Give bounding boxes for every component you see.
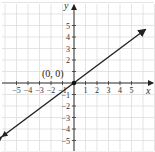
y-tick-label: −5 [61, 137, 70, 146]
y-tick-label: 3 [66, 45, 70, 54]
y-tick-label: −2 [61, 102, 70, 111]
y-tick-label: 4 [66, 33, 70, 42]
x-tick-label: −4 [24, 86, 33, 95]
coordinate-plane-chart: −5−4−3−2−112345−5−4−3−2−12345 x y (0, 0) [0, 0, 155, 152]
origin-point-label: (0, 0) [42, 68, 64, 79]
x-tick-label: 5 [130, 86, 134, 95]
x-tick-label: 3 [107, 86, 111, 95]
plot-area: −5−4−3−2−112345−5−4−3−2−12345 [0, 0, 155, 152]
y-tick-label: 5 [66, 22, 70, 31]
x-axis-label: x [146, 85, 150, 96]
x-tick-label: 1 [84, 86, 88, 95]
y-axis-label: y [64, 0, 68, 11]
x-tick-label: 2 [95, 86, 99, 95]
y-tick-label: 2 [66, 56, 70, 65]
x-tick-label: 4 [118, 86, 122, 95]
x-tick-label: −5 [12, 86, 21, 95]
y-tick-label: −4 [61, 125, 70, 134]
x-tick-label: −2 [47, 86, 56, 95]
y-tick-label: −3 [61, 114, 70, 123]
origin-point [72, 81, 77, 86]
x-tick-label: −3 [35, 86, 44, 95]
